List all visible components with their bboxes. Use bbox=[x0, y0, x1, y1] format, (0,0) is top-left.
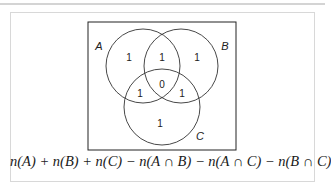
label-b: B bbox=[221, 40, 228, 52]
region-c-only: 1 bbox=[157, 118, 163, 129]
region-a-only: 1 bbox=[126, 52, 132, 63]
region-a-b-c: 0 bbox=[159, 79, 165, 90]
region-a-c: 1 bbox=[137, 88, 143, 99]
label-a: A bbox=[94, 40, 102, 52]
set-a-circle bbox=[106, 29, 180, 103]
inclusion-exclusion-formula: n(A) + n(B) + n(C) − n(A ∩ B) − n(A ∩ C)… bbox=[10, 153, 315, 170]
region-b-only: 1 bbox=[194, 52, 200, 63]
formula-text: n(A) + n(B) + n(C) − n(A ∩ B) − n(A ∩ C)… bbox=[10, 153, 331, 169]
region-a-b: 1 bbox=[159, 52, 165, 63]
region-b-c: 1 bbox=[179, 88, 185, 99]
label-c: C bbox=[196, 130, 204, 142]
